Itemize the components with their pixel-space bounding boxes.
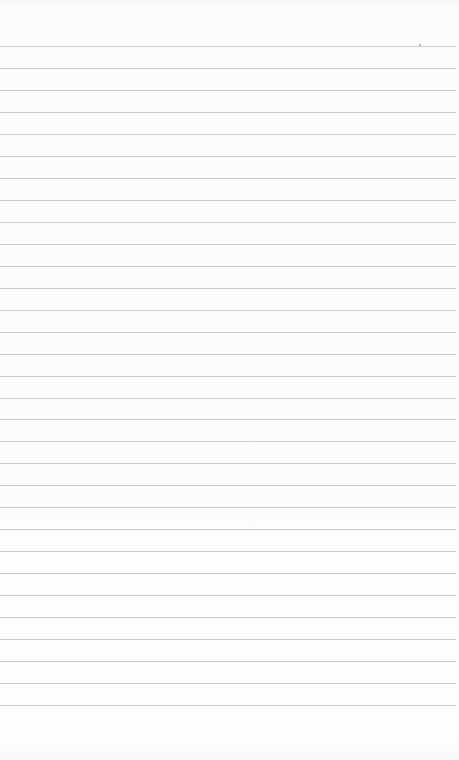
ruled-line: [0, 376, 456, 377]
ruled-line: [0, 244, 456, 245]
ruled-line: [0, 573, 456, 574]
ruled-line: [0, 178, 456, 179]
ruled-line: [0, 551, 456, 552]
ruled-line: [0, 332, 456, 333]
ruled-line: [0, 595, 456, 596]
ruled-line: [0, 68, 456, 69]
ruled-paper-sheet: [0, 0, 459, 760]
ruled-line: [0, 134, 456, 135]
ruled-line: [0, 705, 456, 706]
ruled-line: [0, 683, 456, 684]
ruled-line: [0, 507, 456, 508]
ruled-line: [0, 46, 456, 47]
ruled-line: [0, 463, 456, 464]
ruled-line: [0, 222, 456, 223]
ruled-line: [0, 112, 456, 113]
ruled-line: [0, 485, 456, 486]
ruled-line: [0, 288, 456, 289]
ruled-line: [0, 200, 456, 201]
ruled-line: [0, 156, 456, 157]
ruled-line: [0, 354, 456, 355]
ruled-line: [0, 398, 456, 399]
ruled-line: [0, 639, 456, 640]
ruled-line: [0, 661, 456, 662]
ruled-line: [0, 441, 456, 442]
ruled-line: [0, 266, 456, 267]
ruled-line: [0, 310, 456, 311]
ruled-line: [0, 419, 456, 420]
ruled-line: [0, 617, 456, 618]
ruled-line: [0, 90, 456, 91]
ruled-line: [0, 529, 456, 530]
